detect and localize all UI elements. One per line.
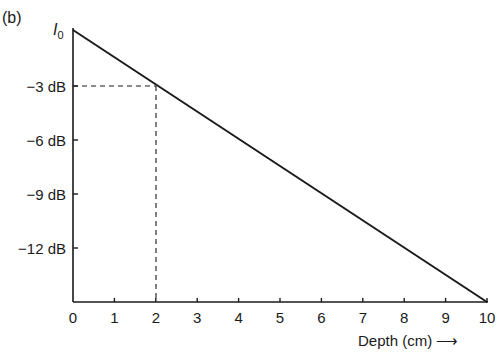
y-tick-minus-3db: −3 dB bbox=[6, 79, 66, 94]
x-tick-9: 9 bbox=[436, 310, 456, 325]
x-tick-2: 2 bbox=[146, 310, 166, 325]
x-tick-7: 7 bbox=[353, 310, 373, 325]
chart-plot-area bbox=[0, 0, 500, 353]
x-tick-10: 10 bbox=[477, 310, 497, 325]
x-tick-0: 0 bbox=[63, 310, 83, 325]
x-tick-1: 1 bbox=[104, 310, 124, 325]
x-tick-6: 6 bbox=[311, 310, 331, 325]
x-axis-label: Depth (cm) ⟶ bbox=[358, 333, 458, 348]
right-arrow-icon: ⟶ bbox=[436, 332, 458, 349]
y-tick-i0: I0 bbox=[53, 22, 64, 41]
panel-label: (b) bbox=[2, 10, 22, 26]
x-tick-3: 3 bbox=[187, 310, 207, 325]
x-tick-5: 5 bbox=[270, 310, 290, 325]
x-tick-4: 4 bbox=[229, 310, 249, 325]
y-tick-minus-6db: −6 dB bbox=[6, 133, 66, 148]
x-tick-8: 8 bbox=[394, 310, 414, 325]
y-tick-minus-12db: −12 dB bbox=[6, 241, 66, 256]
attenuation-line bbox=[73, 30, 487, 302]
y-tick-minus-9db: −9 dB bbox=[6, 187, 66, 202]
minus-3db-guide bbox=[73, 86, 156, 302]
